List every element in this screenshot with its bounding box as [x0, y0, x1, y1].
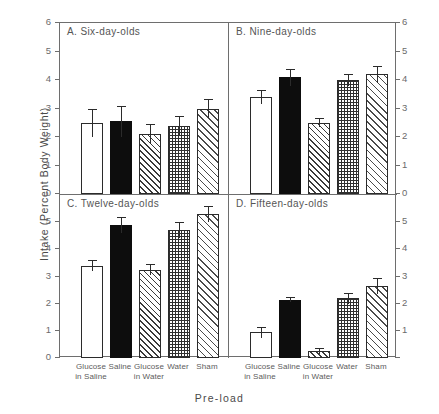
x-axis-title: Pre-load [0, 392, 439, 404]
y-tick-label-right: 1 [402, 324, 418, 335]
x-tick-label-line: in Saline [68, 372, 114, 382]
y-tick-label-right: 5 [402, 45, 418, 56]
y-tick-label-left: 4 [35, 242, 51, 253]
error-bar [319, 118, 320, 127]
error-bar [348, 74, 349, 85]
error-bar [92, 260, 93, 271]
y-tick-label-left: 2 [35, 130, 51, 141]
error-bar [150, 264, 151, 275]
bar [139, 270, 161, 358]
error-bar-cap [146, 124, 155, 125]
y-tick-label-right: 2 [402, 297, 418, 308]
bar [279, 77, 301, 194]
y-tick-label-right: 0 [402, 187, 418, 198]
x-tick-label-line: in Water [295, 372, 341, 382]
error-bar [290, 69, 291, 86]
error-bar-cap [286, 297, 295, 298]
error-bar-cap [286, 69, 295, 70]
y-tick-label-left: 3 [35, 102, 51, 113]
y-tick-label-left: 0 [35, 187, 51, 198]
bar [197, 214, 219, 358]
bar [337, 298, 359, 358]
error-bar-cap [175, 222, 184, 223]
plot-frame: A. Six-day-olds B. Nine-day-olds C. Twel… [59, 22, 396, 357]
x-tick-label-line: in Water [126, 372, 172, 382]
error-bar [208, 99, 209, 119]
error-bar-cap [373, 66, 382, 67]
error-bar-cap [146, 264, 155, 265]
error-bar [377, 278, 378, 294]
panel-a-bars [60, 23, 228, 194]
error-bar [261, 90, 262, 104]
y-tick-label-left: 2 [35, 297, 51, 308]
x-tick-label-line: in Saline [237, 372, 283, 382]
y-tick-label-left: 5 [35, 45, 51, 56]
bar [308, 123, 330, 194]
bar [250, 97, 272, 194]
bar [81, 266, 103, 358]
x-tick-label-line: Sham [184, 362, 230, 372]
y-tick-label-left: 1 [35, 159, 51, 170]
error-bar [179, 222, 180, 238]
y-tick-label-left: 3 [35, 270, 51, 281]
y-tick-label-left: 4 [35, 73, 51, 84]
panel-b-bars [229, 23, 397, 194]
error-bar [121, 106, 122, 137]
bar [168, 126, 190, 194]
error-bar-cap [88, 260, 97, 261]
panel-a: A. Six-day-olds [60, 23, 228, 194]
panel-d: D. Fifteen-day-olds [229, 195, 397, 358]
error-bar [208, 206, 209, 222]
bar [366, 286, 388, 358]
bar [110, 225, 132, 358]
error-bar-cap [117, 106, 126, 107]
error-bar [92, 109, 93, 138]
panel-b: B. Nine-day-olds [229, 23, 397, 194]
error-bar-cap [204, 206, 213, 207]
panel-c-bars [60, 195, 228, 358]
error-bar-cap [257, 90, 266, 91]
y-tick-label-right: 1 [402, 159, 418, 170]
error-bar [121, 217, 122, 233]
y-tick-label-right: 3 [402, 270, 418, 281]
bar [168, 230, 190, 358]
error-bar-cap [344, 293, 353, 294]
panel-d-bars [229, 195, 397, 358]
x-tick-label-line: Sham [353, 362, 399, 372]
figure-bar-chart: Intake (Percent Body Weight) Pre-load 00… [0, 0, 439, 414]
bar [279, 300, 301, 358]
x-tick-label-right-4: Sham [353, 362, 399, 372]
y-tick-label-left: 6 [35, 16, 51, 27]
y-tick-label-right: 4 [402, 242, 418, 253]
error-bar [261, 327, 262, 338]
error-bar [348, 293, 349, 304]
error-bar [377, 66, 378, 83]
error-bar [179, 116, 180, 136]
y-tick-label-right: 5 [402, 215, 418, 226]
error-bar-cap [344, 74, 353, 75]
y-tick-label-right: 3 [402, 102, 418, 113]
y-tick-label-left: 1 [35, 324, 51, 335]
error-bar [150, 124, 151, 144]
bar [197, 109, 219, 195]
error-bar-cap [373, 278, 382, 279]
error-bar-cap [175, 116, 184, 117]
error-bar-cap [315, 118, 324, 119]
error-bar-cap [88, 109, 97, 110]
y-axis-title: Intake (Percent Body Weight) [38, 84, 50, 284]
x-tick-label-left-4: Sham [184, 362, 230, 372]
y-tick-label-right: 2 [402, 130, 418, 141]
y-tick-label-left: 0 [35, 351, 51, 362]
panel-c: C. Twelve-day-olds [60, 195, 228, 358]
y-tick-label-left: 5 [35, 215, 51, 226]
bar [337, 80, 359, 194]
y-tick-label-right: 6 [402, 16, 418, 27]
error-bar-cap [204, 99, 213, 100]
y-tick-label-right: 4 [402, 73, 418, 84]
error-bar-cap [117, 217, 126, 218]
error-bar-cap [257, 327, 266, 328]
error-bar-cap [315, 348, 324, 349]
bar [366, 74, 388, 194]
